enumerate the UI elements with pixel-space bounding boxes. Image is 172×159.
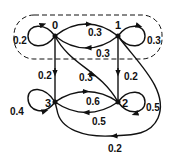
node-3-label: 3 — [45, 97, 51, 109]
edge-1-0 — [55, 36, 118, 48]
edge-1-2-label: 0.2 — [124, 71, 138, 82]
edge-0-0-label: 0.2 — [13, 35, 27, 46]
node-1-label: 1 — [115, 19, 121, 31]
node-2-label: 2 — [122, 97, 128, 109]
edge-1-1 — [118, 26, 145, 46]
edge-2-3-label: 0.5 — [92, 116, 106, 127]
edge-1-3-label: 0.2 — [108, 143, 122, 154]
edge-1-1-label: 0.3 — [147, 35, 161, 46]
edge-3-3-label: 0.4 — [10, 106, 24, 117]
edge-1-0-label: 0.3 — [96, 48, 110, 59]
node-0 — [53, 34, 58, 39]
edge-0-1-label: 0.3 — [88, 27, 102, 38]
node-0-label: 0 — [52, 19, 58, 31]
edge-0-3-label: 0.2 — [38, 70, 52, 81]
edge-2-2-label: 0.5 — [146, 102, 160, 113]
edge-0-0 — [28, 26, 55, 46]
edge-0-1 — [55, 24, 118, 36]
edge-0-2-label: 0.3 — [79, 72, 93, 83]
node-2 — [116, 100, 121, 105]
markov-chain-diagram: 0 1 2 3 0.2 0.3 0.3 0.3 0.2 0.3 0.2 0.2 … — [0, 0, 172, 159]
node-1 — [116, 34, 121, 39]
node-3 — [53, 100, 58, 105]
edge-3-2-label: 0.6 — [86, 96, 100, 107]
